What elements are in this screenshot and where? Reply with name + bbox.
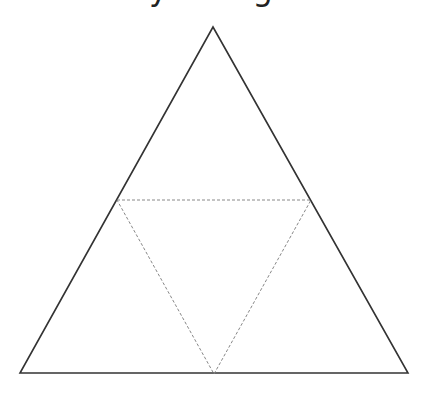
inner-dashed-triangle <box>117 200 311 374</box>
triangle-diagram <box>0 0 430 393</box>
